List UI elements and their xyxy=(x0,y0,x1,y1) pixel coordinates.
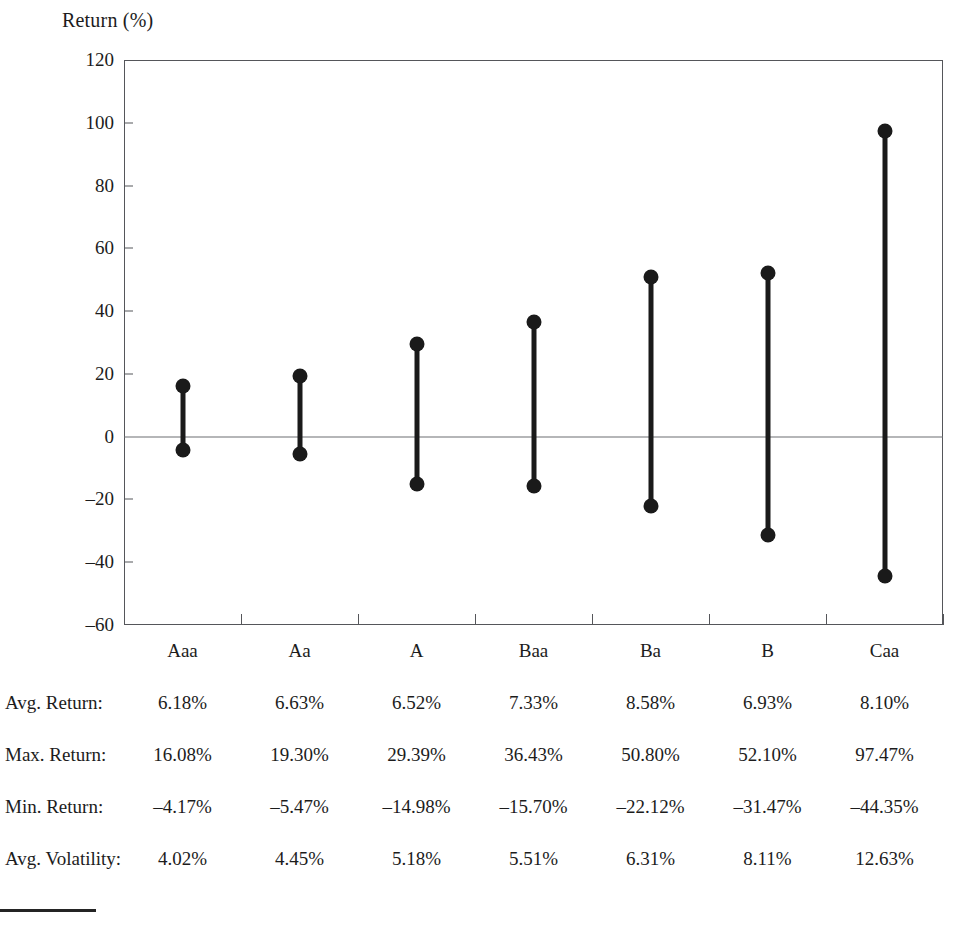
range-bar xyxy=(882,131,887,576)
x-axis-tick-label: Aa xyxy=(288,640,310,662)
x-axis-tick-label: Ba xyxy=(640,640,661,662)
x-axis-tick-label: Caa xyxy=(870,640,900,662)
footnote-separator xyxy=(0,909,96,912)
min-return-marker xyxy=(760,528,775,543)
range-bar xyxy=(297,376,302,454)
table-cell: 6.18% xyxy=(158,692,207,714)
table-cell: 50.80% xyxy=(621,744,680,766)
x-axis-tick-mark xyxy=(592,614,593,625)
x-axis-tick-label: Baa xyxy=(519,640,549,662)
table-cell: –5.47% xyxy=(270,796,329,818)
table-cell: 8.58% xyxy=(626,692,675,714)
max-return-marker xyxy=(526,315,541,330)
table-row: Max. Return:16.08%19.30%29.39%36.43%50.8… xyxy=(0,744,957,770)
max-return-marker xyxy=(292,369,307,384)
range-bar xyxy=(414,344,419,483)
max-return-marker xyxy=(409,337,424,352)
plot-area xyxy=(124,60,943,625)
table-cell: 16.08% xyxy=(153,744,212,766)
table-cell: 19.30% xyxy=(270,744,329,766)
y-axis-tick-label: –40 xyxy=(54,551,114,573)
min-return-marker xyxy=(643,499,658,514)
table-row: Min. Return:–4.17%–5.47%–14.98%–15.70%–2… xyxy=(0,796,957,822)
table-cell: –14.98% xyxy=(382,796,450,818)
y-axis-tick-mark xyxy=(124,373,133,374)
table-cell: 36.43% xyxy=(504,744,563,766)
x-axis-tick-label: Aaa xyxy=(167,640,198,662)
range-bar xyxy=(180,386,185,450)
y-axis-tick-label: 60 xyxy=(54,237,114,259)
max-return-marker xyxy=(760,266,775,281)
min-return-marker xyxy=(877,568,892,583)
table-cell: 5.18% xyxy=(392,848,441,870)
min-return-marker xyxy=(175,442,190,457)
table-row: Avg. Return:6.18%6.63%6.52%7.33%8.58%6.9… xyxy=(0,692,957,718)
table-cell: 12.63% xyxy=(855,848,914,870)
table-cell: 4.02% xyxy=(158,848,207,870)
y-axis-tick-label: 0 xyxy=(54,426,114,448)
y-axis-tick-label: 40 xyxy=(54,300,114,322)
table-cell: 97.47% xyxy=(855,744,914,766)
table-row-label: Max. Return: xyxy=(5,744,106,766)
min-return-marker xyxy=(526,478,541,493)
y-axis-tick-label: 120 xyxy=(54,49,114,71)
x-axis-tick-mark xyxy=(826,614,827,625)
table-row: Avg. Volatility:4.02%4.45%5.18%5.51%6.31… xyxy=(0,848,957,874)
table-cell: 52.10% xyxy=(738,744,797,766)
table-row-label: Avg. Return: xyxy=(5,692,103,714)
y-axis-tick-mark xyxy=(124,311,133,312)
table-cell: 4.45% xyxy=(275,848,324,870)
y-axis-tick-mark xyxy=(124,185,133,186)
y-axis-title: Return (%) xyxy=(62,9,153,32)
x-axis-tick-label: A xyxy=(410,640,424,662)
table-cell: 7.33% xyxy=(509,692,558,714)
y-axis-tick-labels: 120100806040200–20–40–60 xyxy=(48,60,114,625)
table-cell: 6.31% xyxy=(626,848,675,870)
range-bar xyxy=(648,277,653,506)
table-cell: 6.52% xyxy=(392,692,441,714)
y-axis-tick-label: 80 xyxy=(54,175,114,197)
y-axis-tick-mark xyxy=(124,562,133,563)
y-axis-tick-label: –60 xyxy=(54,614,114,636)
x-axis-tick-mark xyxy=(241,614,242,625)
table-cell: 6.63% xyxy=(275,692,324,714)
table-cell: –4.17% xyxy=(153,796,212,818)
y-axis-tick-label: 20 xyxy=(54,363,114,385)
max-return-marker xyxy=(877,123,892,138)
min-return-marker xyxy=(409,476,424,491)
table-cell: –15.70% xyxy=(499,796,567,818)
y-axis-tick-label: 100 xyxy=(54,112,114,134)
table-cell: 8.11% xyxy=(743,848,791,870)
table-cell: –31.47% xyxy=(733,796,801,818)
table-cell: 29.39% xyxy=(387,744,446,766)
range-bar xyxy=(531,322,536,486)
range-bar xyxy=(765,273,770,535)
table-cell: 8.10% xyxy=(860,692,909,714)
y-axis-tick-label: –20 xyxy=(54,488,114,510)
y-axis-tick-mark xyxy=(124,122,133,123)
x-axis-tick-mark xyxy=(709,614,710,625)
table-cell: –22.12% xyxy=(616,796,684,818)
table-cell: 5.51% xyxy=(509,848,558,870)
table-cell: –44.35% xyxy=(850,796,918,818)
figure: Return (%) 120100806040200–20–40–60 AaaA… xyxy=(0,0,957,927)
table-row-label: Min. Return: xyxy=(5,796,103,818)
footnote-text xyxy=(4,915,604,927)
y-axis-tick-mark xyxy=(124,248,133,249)
table-cell: 6.93% xyxy=(743,692,792,714)
table-row-label: Avg. Volatility: xyxy=(5,848,121,870)
x-axis-tick-mark xyxy=(943,614,944,625)
min-return-marker xyxy=(292,446,307,461)
x-axis-tick-mark xyxy=(358,614,359,625)
x-axis-tick-mark xyxy=(475,614,476,625)
max-return-marker xyxy=(643,270,658,285)
max-return-marker xyxy=(175,379,190,394)
x-axis-tick-label: B xyxy=(761,640,774,662)
y-axis-tick-mark xyxy=(124,499,133,500)
